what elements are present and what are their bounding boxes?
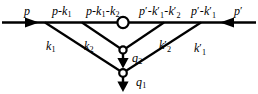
label-rung-k2: k2 [84,40,94,54]
arrow-incoming-left-icon [25,18,39,28]
diagram-canvas: p p-k1 p-k1-k2 p′-k′1-k′2 p′-k′1 p′ k1 k… [0,0,258,94]
subscript-1: 1 [67,10,71,19]
label-top-right-seg1-momentum: p′-k′1 [191,5,216,20]
node-vertex-q2 [119,46,126,53]
node-vertex-q1 [119,69,127,77]
label-out-q1: q1 [136,76,146,90]
subscript-2: 2 [167,45,171,54]
label-rung-k1-prime: k′1 [194,42,206,57]
label-incoming-left-momentum: p [24,5,30,17]
label-rung-k1: k1 [46,40,56,54]
subscript-1: 1 [51,45,55,54]
subscript-1: 1 [101,10,105,19]
label-top-right-seg2-momentum: p′-k′1-k′2 [139,5,181,20]
subscript-2: 2 [176,11,180,20]
subscript-1: 1 [212,11,216,20]
arrow-out-q1-icon [117,82,128,93]
arrow-out-q2-icon [117,58,128,69]
ladder-diagram-graphic [0,0,258,94]
label-incoming-right-momentum: p′ [234,5,243,17]
subscript-2: 2 [138,57,142,66]
subscript-1: 1 [142,81,146,90]
label-rung-k2-prime: k′2 [159,39,171,54]
prime-mark: ′ [240,4,243,16]
arrow-incoming-right-icon [220,18,234,28]
edge-rung-k1 [45,23,121,72]
subscript-2: 2 [115,10,119,19]
label-top-left-seg2-momentum: p-k1-k2 [86,5,120,19]
subscript-1: 1 [202,48,206,57]
label-out-q2: q2 [132,52,142,66]
subscript-2: 2 [89,45,93,54]
label-top-left-seg1-momentum: p-k1 [52,5,72,19]
